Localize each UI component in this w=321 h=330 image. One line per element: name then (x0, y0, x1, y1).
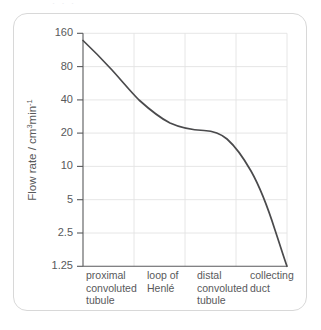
xcat-distal-line1: distal (197, 269, 222, 281)
ytick-label-20: 20 (61, 126, 73, 138)
ytick-label-80: 80 (61, 60, 73, 72)
chart-svg: 160 80 40 20 10 5 2.5 1.25 Flow rate / c… (0, 0, 321, 330)
y-axis-title: Flow rate / cm3min-1 (25, 99, 39, 201)
xcat-proximal-line3: tubule (86, 294, 115, 306)
ytick-label-2point5: 2.5 (58, 226, 73, 238)
ytick-label-40: 40 (61, 93, 73, 105)
xcat-distal-line3: tubule (197, 294, 226, 306)
ytick-label-1point25: 1.25 (52, 259, 73, 271)
y-axis-ticks (77, 33, 83, 266)
xcat-henle-line2: Henlé (147, 282, 175, 294)
y-axis-title-sup-minus1: -1 (25, 99, 34, 106)
ytick-label-10: 10 (61, 159, 73, 171)
ytick-label-5: 5 (67, 193, 73, 205)
vertical-gridlines (134, 33, 287, 266)
xcat-distal-line2: convoluted (197, 282, 248, 294)
y-axis-title-min: min (26, 106, 38, 125)
y-axis-title-main: Flow rate / cm (26, 129, 38, 201)
xcat-henle-line1: loop of (147, 269, 179, 281)
flow-rate-chart: 160 80 40 20 10 5 2.5 1.25 Flow rate / c… (0, 0, 321, 330)
x-axis-category-labels: proximal convoluted tubule loop of Henlé… (86, 269, 294, 306)
xcat-proximal-line1: proximal (86, 269, 126, 281)
y-axis-tick-labels: 160 80 40 20 10 5 2.5 1.25 (52, 26, 73, 271)
xcat-collecting-line2: duct (250, 282, 270, 294)
xcat-proximal-line2: convoluted (86, 282, 137, 294)
ytick-label-160: 160 (55, 26, 73, 38)
xcat-collecting-line1: collecting (250, 269, 294, 281)
